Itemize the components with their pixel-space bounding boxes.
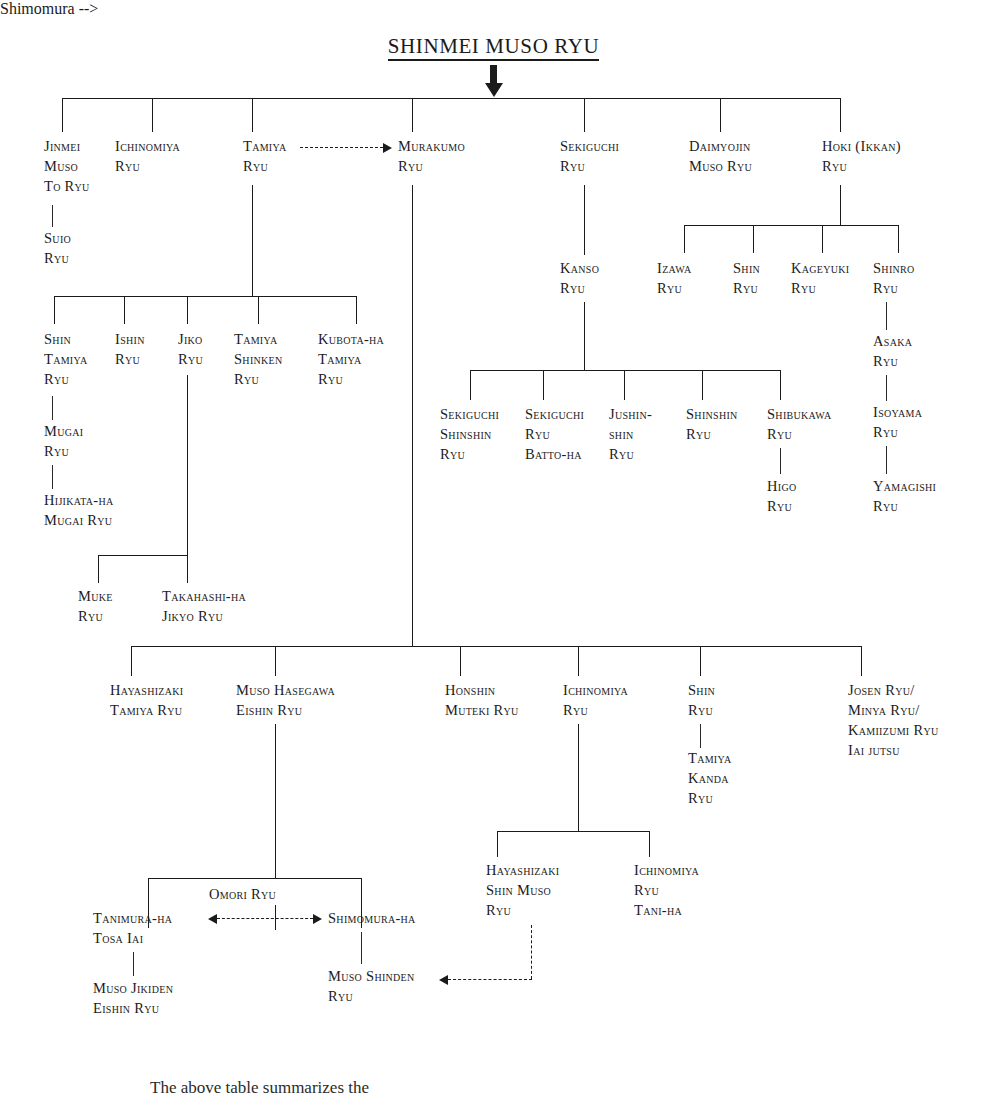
sekiguchi-to-kanso-link bbox=[584, 185, 585, 255]
node-line: Daimyojin bbox=[689, 136, 752, 156]
node-line: Muso Jikiden bbox=[93, 978, 173, 998]
node-line: Ryu bbox=[791, 278, 849, 298]
shin-tamiya-to-mugai-link bbox=[52, 396, 53, 420]
node-higo-ryu: Higo Ryu bbox=[767, 476, 796, 516]
muso-hasegawa-down-stem bbox=[275, 724, 276, 878]
node-line: Shin Muso bbox=[486, 880, 559, 900]
node-suio-ryu: Suio Ryu bbox=[44, 228, 71, 268]
hoki-children-bar bbox=[684, 225, 898, 226]
page-body-text-partial: The above table summarizes the bbox=[150, 1078, 369, 1100]
node-line: Tamiya bbox=[44, 349, 87, 369]
node-line: Muso Hasegawa bbox=[236, 680, 335, 700]
node-line: Mugai bbox=[44, 421, 83, 441]
node-line: Tanimura-ha bbox=[93, 908, 172, 928]
node-line: Isoyama bbox=[873, 402, 922, 422]
node-line: Muke bbox=[78, 586, 113, 606]
down-arrow-icon bbox=[485, 83, 503, 97]
node-line: Shin bbox=[688, 680, 715, 700]
node-line: Hayashizaki bbox=[486, 860, 559, 880]
node-line: Suio bbox=[44, 228, 71, 248]
node-muso-shinden-ryu: Muso Shinden Ryu bbox=[328, 966, 415, 1006]
node-line: Shin bbox=[733, 258, 760, 278]
node-line: Ryu bbox=[398, 156, 465, 176]
node-line: Ryu bbox=[178, 349, 203, 369]
josen-stem bbox=[861, 646, 862, 676]
node-line: Honshin bbox=[445, 680, 519, 700]
node-line: Ryu bbox=[686, 424, 738, 444]
node-line: Shibukawa bbox=[767, 404, 831, 424]
node-line: Takahashi-ha bbox=[162, 586, 246, 606]
top-branch-4-stem bbox=[412, 98, 413, 132]
node-line: Tosa Iai bbox=[93, 928, 172, 948]
node-yamagishi-ryu: Yamagishi Ryu bbox=[873, 476, 936, 516]
sekiguchi-batto-stem bbox=[543, 370, 544, 400]
tamiya-children-bar bbox=[54, 296, 356, 297]
node-line: Shinshin bbox=[686, 404, 738, 424]
node-line: Jiko bbox=[178, 329, 203, 349]
node-shin-tamiya-ryu: Shin Tamiya Ryu bbox=[44, 329, 87, 389]
top-branch-1-stem bbox=[62, 98, 63, 132]
node-line: Tamiya bbox=[234, 329, 283, 349]
root-arrow-stem bbox=[490, 65, 497, 85]
node-line: Ryu bbox=[44, 441, 83, 461]
hayashizaki-tamiya-stem bbox=[131, 646, 132, 676]
node-line: Shin bbox=[44, 329, 87, 349]
node-line: Ryu bbox=[328, 986, 415, 1006]
ichinomiya-mid-stem bbox=[578, 646, 579, 676]
node-line: Ishin bbox=[115, 329, 145, 349]
node-line: Ryu bbox=[733, 278, 760, 298]
node-line: Tamiya bbox=[688, 748, 731, 768]
jiko-children-bar bbox=[98, 555, 188, 556]
node-line: Kanda bbox=[688, 768, 731, 788]
node-line: Shinken bbox=[234, 349, 283, 369]
node-line: Ryu bbox=[873, 278, 915, 298]
node-line: Ryu bbox=[609, 444, 652, 464]
node-takahashi-ha-jikyo-ryu: Takahashi-ha Jikyo Ryu bbox=[162, 586, 246, 626]
hayashizaki-shin-muso-stem bbox=[497, 831, 498, 857]
node-line: Iai jutsu bbox=[848, 740, 938, 760]
kageyuki-stem bbox=[822, 225, 823, 253]
node-line: Kamiizumi Ryu bbox=[848, 720, 938, 740]
node-shimomura-ha: Shimomura-ha bbox=[328, 908, 416, 928]
top-branch-3-stem bbox=[252, 98, 253, 132]
node-line: Ryu bbox=[525, 424, 584, 444]
murakumo-down-stem bbox=[412, 185, 413, 646]
node-honshin-muteki-ryu: Honshin Muteki Ryu bbox=[445, 680, 519, 720]
node-line: Ryu bbox=[78, 606, 113, 626]
node-line: Muso Shinden bbox=[328, 966, 415, 986]
ichinomiya-mid-children-bar bbox=[497, 831, 649, 832]
hayashizaki-to-muso-shinden-dashed-horizontal bbox=[448, 979, 532, 980]
node-jinmei-muso-to-ryu: Jinmei Muso To Ryu bbox=[44, 136, 90, 196]
node-line: Sekiguchi bbox=[440, 404, 499, 424]
node-line: Ryu bbox=[634, 880, 699, 900]
node-line: To Ryu bbox=[44, 176, 90, 196]
node-line: Eishin Ryu bbox=[93, 998, 173, 1018]
top-branch-2-stem bbox=[152, 98, 153, 132]
node-shinshin-ryu: Shinshin Ryu bbox=[686, 404, 738, 444]
arrow-left-icon bbox=[208, 914, 217, 924]
isoyama-to-yamagishi-link bbox=[886, 446, 887, 474]
shin-hoki-stem bbox=[753, 225, 754, 253]
node-murakumo-ryu: Murakumo Ryu bbox=[398, 136, 465, 176]
node-line: Shimomura-ha bbox=[328, 908, 416, 928]
node-line: Ryu bbox=[767, 424, 831, 444]
node-hayashizaki-tamiya-ryu: Hayashizaki Tamiya Ryu bbox=[110, 680, 183, 720]
tanimura-to-muso-jikiden-link bbox=[133, 952, 134, 976]
diagram-title: SHINMEI MUSO RYU bbox=[0, 34, 987, 59]
node-kanso-ryu: Kanso Ryu bbox=[560, 258, 599, 298]
jiko-down-stem bbox=[187, 375, 188, 555]
node-jushinshin-ryu: Jushin- shin Ryu bbox=[609, 404, 652, 464]
kanso-children-bar bbox=[470, 370, 780, 371]
top-branch-7-stem bbox=[840, 98, 841, 132]
ishin-stem bbox=[124, 296, 125, 324]
node-line: shin bbox=[609, 424, 652, 444]
node-line: Jushin- bbox=[609, 404, 652, 424]
node-line: Izawa bbox=[657, 258, 691, 278]
asaka-to-isoyama-link bbox=[886, 375, 887, 401]
muke-stem bbox=[98, 555, 99, 583]
node-line: Muso Ryu bbox=[689, 156, 752, 176]
kanso-down-stem bbox=[584, 302, 585, 370]
node-line: Ryu bbox=[560, 156, 619, 176]
node-line: Muso bbox=[44, 156, 90, 176]
node-ichinomiya-ryu-top: Ichinomiya Ryu bbox=[115, 136, 180, 176]
